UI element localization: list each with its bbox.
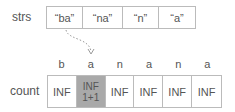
char-label: n bbox=[105, 58, 134, 70]
count-cell-highlighted: INF 1+1 bbox=[77, 76, 106, 107]
char-label: a bbox=[193, 58, 222, 70]
char-label: a bbox=[134, 58, 163, 70]
char-label: n bbox=[164, 58, 193, 70]
count-cell: INF bbox=[192, 76, 221, 107]
char-label: a bbox=[76, 58, 105, 70]
count-cell-value: INF bbox=[83, 81, 99, 92]
count-cell: INF bbox=[163, 76, 192, 107]
count-array: INF INF 1+1 INF INF INF INF bbox=[47, 75, 222, 108]
count-cell: INF bbox=[134, 76, 163, 107]
target-string-chars: b a n a n a bbox=[47, 58, 222, 70]
count-cell-update: 1+1 bbox=[82, 92, 99, 103]
count-cell: INF bbox=[48, 76, 77, 107]
char-label: b bbox=[47, 58, 76, 70]
count-label: count bbox=[10, 84, 39, 98]
count-cell: INF bbox=[106, 76, 135, 107]
